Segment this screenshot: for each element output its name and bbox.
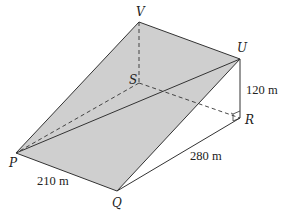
label-p: P bbox=[8, 156, 18, 170]
label-u: U bbox=[237, 41, 248, 55]
label-v: V bbox=[136, 5, 146, 19]
right-angle-marker-b bbox=[231, 113, 233, 114]
label-q: Q bbox=[112, 196, 122, 210]
measure-ur: 120 m bbox=[246, 83, 278, 97]
measure-qr: 280 m bbox=[190, 149, 222, 163]
wedge-diagram: V U S R P Q 120 m 280 m 210 m bbox=[0, 0, 293, 219]
measure-pq: 210 m bbox=[37, 174, 69, 188]
label-r: R bbox=[244, 113, 254, 127]
label-s: S bbox=[129, 73, 137, 87]
